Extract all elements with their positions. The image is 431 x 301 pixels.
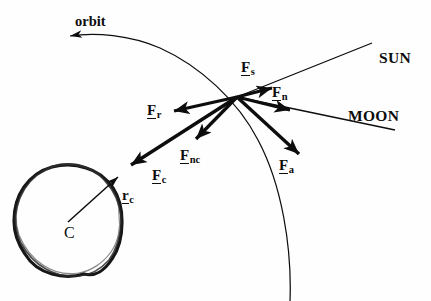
vector-subscript-F-s: s <box>251 66 255 77</box>
orbit-label: orbit <box>75 14 106 29</box>
vector-subscript-F-n: n <box>282 91 288 102</box>
diagram-canvas <box>0 0 431 301</box>
vector-subscript-F-nc: nc <box>190 154 201 165</box>
central-body-label: C <box>64 225 75 241</box>
vector-label-r-c: rc <box>122 188 133 204</box>
vector-label-F-c: Fc <box>152 168 166 184</box>
vector-subscript-F-r: r <box>157 109 162 120</box>
vector-symbol-r-c: r <box>122 188 129 204</box>
vector-symbol-F-s: F <box>241 60 250 76</box>
vector-label-F-a: Fa <box>279 158 293 174</box>
vector-subscript-r-c: c <box>129 194 134 205</box>
vector-subscript-F-c: c <box>162 174 167 185</box>
vector-symbol-F-r: F <box>147 103 156 119</box>
vector-r-c <box>68 177 118 222</box>
moon-label: MOON <box>348 108 399 124</box>
sun-label: SUN <box>379 50 411 66</box>
vector-symbol-F-a: F <box>279 158 288 174</box>
vector-label-F-r: Fr <box>147 103 161 119</box>
vector-symbol-F-n: F <box>272 85 281 101</box>
vector-label-F-n: Fn <box>272 85 287 101</box>
force-diagram-figure: orbit SUN MOON C Fs Fn Fr Fnc Fc Fa rc <box>0 0 431 301</box>
sun-direction-line <box>237 43 372 97</box>
vector-subscript-F-a: a <box>289 164 294 175</box>
vector-symbol-F-c: F <box>152 168 161 184</box>
vector-symbol-F-nc: F <box>180 148 189 164</box>
vector-label-F-s: Fs <box>241 60 254 76</box>
vector-label-F-nc: Fnc <box>180 148 200 164</box>
